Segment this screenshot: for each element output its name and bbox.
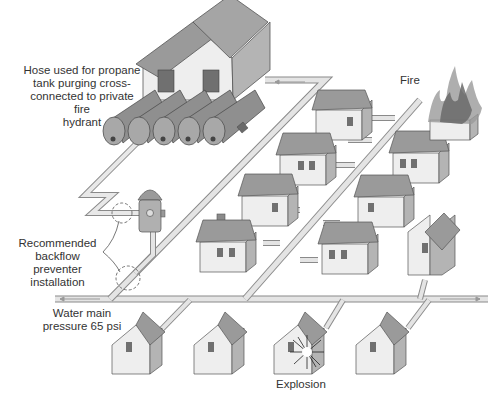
diagram-canvas: Hose used for propane tank purging cross… [0,0,492,399]
house [312,90,372,140]
hose-label-line-3: connected to private fire [22,90,142,116]
backflow-label: Recommended backflow preventer installat… [10,237,105,289]
house [408,213,460,275]
backflow-label-line-3: installation [10,276,105,289]
house [356,312,409,374]
water-main-label: Water main pressure 65 psi [42,307,122,333]
backflow-label-line-2: backflow preventer [10,250,105,276]
house [194,312,247,374]
water-main-label-line-1: Water main [42,307,122,320]
house [318,222,378,274]
house-on-fire [428,66,482,140]
backflow-leader-lines [103,221,120,272]
backflow-label-line-1: Recommended [10,237,105,250]
explosion-label: Explosion [276,378,326,391]
fire-icon [428,66,482,124]
factory-building [136,0,270,100]
hose-label-line-1: Hose used for propane [22,64,142,77]
house [354,175,414,227]
hose-label: Hose used for propane tank purging cross… [22,64,142,129]
fire-hydrant [138,190,165,232]
hose-label-line-4: hydrant [22,116,142,129]
hose-label-line-2: tank purging cross- [22,77,142,90]
fire-label: Fire [400,74,420,87]
house-explosion [274,312,327,374]
house [238,174,298,226]
water-main-label-line-2: pressure 65 psi [42,320,122,333]
house [196,214,256,272]
